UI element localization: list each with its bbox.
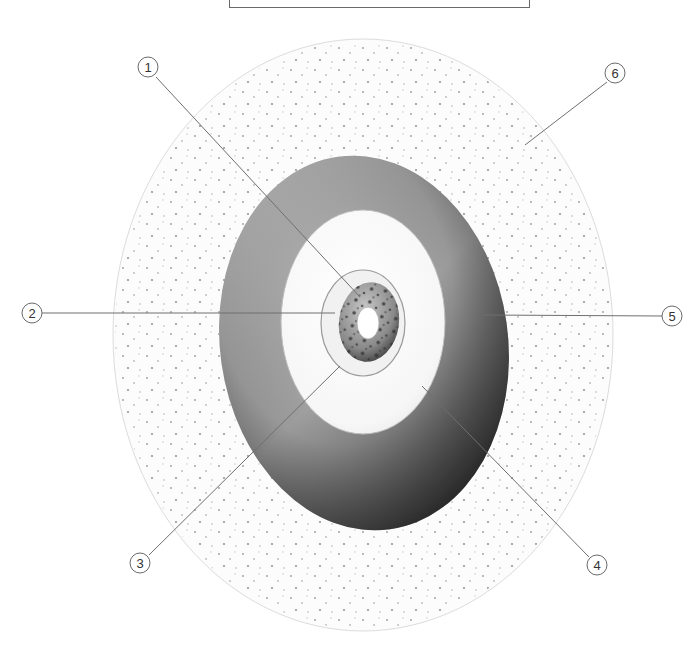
callout-line-6	[525, 82, 607, 145]
callout-label-5: 5	[668, 309, 675, 324]
callout-4: 4	[587, 555, 607, 575]
callout-1: 1	[138, 57, 158, 77]
callout-5: 5	[662, 306, 682, 326]
layered-structure-diagram: 1 2 3 4 5 6	[0, 0, 700, 663]
callout-label-2: 2	[28, 306, 35, 321]
white-center	[357, 307, 379, 339]
callout-label-6: 6	[611, 66, 618, 81]
callout-6: 6	[605, 63, 625, 83]
callout-label-1: 1	[144, 60, 151, 75]
callout-label-4: 4	[593, 558, 600, 573]
callout-2: 2	[22, 303, 42, 323]
callout-3: 3	[130, 553, 150, 573]
callout-label-3: 3	[136, 556, 143, 571]
